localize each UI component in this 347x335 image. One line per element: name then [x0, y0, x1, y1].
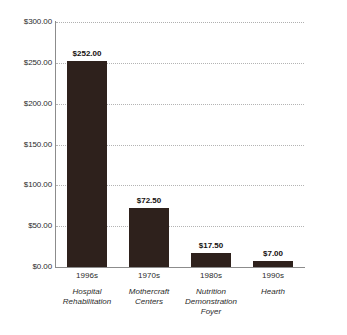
- bar-value-label: $252.00: [56, 49, 118, 58]
- y-axis-tick-label: $250.00: [2, 58, 52, 67]
- x-axis-category-label: 1970s: [118, 271, 180, 280]
- bar[interactable]: [191, 253, 231, 267]
- x-axis-tick: 1990sHearth: [242, 271, 304, 297]
- x-axis-category-name-line: Hospital: [56, 287, 118, 297]
- y-axis-tick-labels: $300.00$250.00$200.00$150.00$100.00$50.0…: [0, 22, 52, 267]
- x-axis-category-label: 1980s: [180, 271, 242, 280]
- bar-slot: $17.50: [180, 22, 242, 267]
- y-axis-tick-label: $150.00: [2, 140, 52, 149]
- plot-area: $252.00$72.50$17.50$7.00: [56, 22, 304, 267]
- bar-chart: $300.00$250.00$200.00$150.00$100.00$50.0…: [0, 0, 347, 335]
- x-axis-category-label: 1996s: [56, 271, 118, 280]
- x-axis-category-name: Hearth: [242, 287, 304, 297]
- bar-slot: $72.50: [118, 22, 180, 267]
- y-axis-tick-label: $100.00: [2, 180, 52, 189]
- x-axis-category-name-line: Hearth: [242, 287, 304, 297]
- x-axis-category-name: NutritionDemonstrationFoyer: [180, 287, 242, 317]
- x-axis-category-name-line: Nutrition: [180, 287, 242, 297]
- y-axis-tick-label: $200.00: [2, 99, 52, 108]
- bar-value-label: $17.50: [180, 241, 242, 250]
- x-axis-line: [55, 267, 305, 268]
- bar-slot: $7.00: [242, 22, 304, 267]
- x-axis-category-name-line: Foyer: [180, 307, 242, 317]
- x-axis-category-name-line: Rehabilitation: [56, 297, 118, 307]
- x-axis-category-name-line: Centers: [118, 297, 180, 307]
- x-axis-tick: 1996sHospitalRehabilitation: [56, 271, 118, 307]
- y-axis-tick-label: $50.00: [2, 221, 52, 230]
- x-axis-category-name: HospitalRehabilitation: [56, 287, 118, 307]
- bar-value-label: $7.00: [242, 249, 304, 258]
- bar-slot: $252.00: [56, 22, 118, 267]
- x-axis-tick: 1980sNutritionDemonstrationFoyer: [180, 271, 242, 317]
- bar[interactable]: [67, 61, 107, 267]
- x-axis-category-name-line: Demonstration: [180, 297, 242, 307]
- x-axis-category-name-line: Mothercraft: [118, 287, 180, 297]
- x-axis-category-name: MothercraftCenters: [118, 287, 180, 307]
- bar[interactable]: [129, 208, 169, 267]
- x-axis-tick: 1970sMothercraftCenters: [118, 271, 180, 307]
- x-axis-category-label: 1990s: [242, 271, 304, 280]
- bar[interactable]: [253, 261, 293, 267]
- bar-value-label: $72.50: [118, 196, 180, 205]
- x-axis-tick-labels: 1996sHospitalRehabilitation1970sMothercr…: [56, 271, 304, 333]
- y-axis-tick-label: $300.00: [2, 17, 52, 26]
- y-axis-tick-label: $0.00: [2, 262, 52, 271]
